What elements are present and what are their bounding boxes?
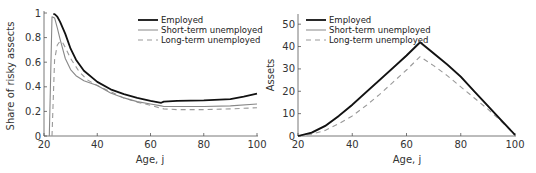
x-tick-label: 20: [292, 139, 305, 150]
right-series-lines: [298, 42, 515, 136]
x-tick-label: 40: [91, 139, 104, 150]
y-tick-label: 20: [282, 86, 295, 97]
y-tick-label: 1: [35, 8, 41, 19]
legend-label-long-term: Long-term unemployed: [161, 35, 260, 45]
y-tick-label: 10: [282, 108, 295, 119]
right-x-axis-label: Age, j: [393, 154, 421, 165]
right-x-ticks: 20406080100: [292, 133, 525, 150]
x-tick-label: 60: [400, 139, 413, 150]
y-tick-label: 0.6: [25, 57, 41, 68]
left-legend: Employed Short-term unemployed Long-term…: [138, 15, 263, 45]
legend-label-long-term: Long-term unemployed: [329, 35, 428, 45]
series-line-long-term-unemployed: [298, 57, 515, 136]
left-chart: 00.20.40.60.81 20406080100 Share of risk…: [5, 8, 267, 166]
x-tick-label: 20: [38, 139, 51, 150]
legend-label-employed: Employed: [329, 15, 371, 25]
y-tick-label: 0.4: [25, 81, 41, 92]
legend-label-short-term: Short-term unemployed: [161, 25, 263, 35]
y-tick-label: 0.8: [25, 32, 41, 43]
legend-label-employed: Employed: [161, 15, 203, 25]
x-tick-label: 60: [144, 139, 157, 150]
right-chart: 01020304050 20406080100 Assets Age, j Em…: [265, 14, 525, 165]
legend-label-short-term: Short-term unemployed: [329, 25, 431, 35]
x-tick-label: 40: [346, 139, 359, 150]
x-tick-label: 80: [197, 139, 210, 150]
y-tick-label: 0.2: [25, 106, 41, 117]
x-tick-label: 100: [505, 139, 524, 150]
left-y-axis-label: Share of risky assects: [5, 22, 16, 131]
series-line-employed: [298, 42, 515, 136]
right-legend: Employed Short-term unemployed Long-term…: [306, 15, 431, 45]
left-x-axis-label: Age, j: [136, 154, 164, 165]
x-tick-label: 100: [247, 139, 266, 150]
right-y-axis-label: Assets: [265, 59, 276, 92]
series-line-long-term-unemployed: [52, 41, 257, 136]
left-x-ticks: 20406080100: [38, 133, 267, 150]
y-tick-label: 30: [282, 63, 295, 74]
figure-canvas: 00.20.40.60.81 20406080100 Share of risk…: [0, 0, 536, 173]
y-tick-label: 50: [282, 19, 295, 30]
y-tick-label: 40: [282, 41, 295, 52]
x-tick-label: 80: [454, 139, 467, 150]
